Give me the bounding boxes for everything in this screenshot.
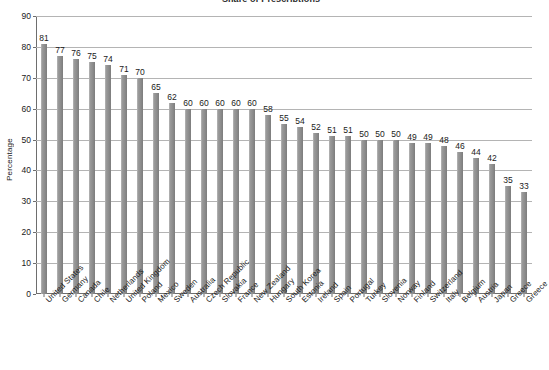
bar-group[interactable]: 60 [201,16,208,294]
bar-value-label: 77 [55,45,64,55]
bar-group[interactable]: 60 [233,16,240,294]
bar-value-label: 33 [519,181,528,191]
y-tick-label: 50 [22,135,31,145]
bar-group[interactable]: 60 [249,16,256,294]
bar[interactable] [377,140,384,294]
bar-value-label: 74 [103,54,112,64]
bar-value-label: 49 [423,132,432,142]
bar-value-label: 60 [215,98,224,108]
bar-value-label: 46 [455,141,464,151]
bar[interactable] [345,136,352,294]
bar[interactable] [425,143,432,294]
bar-group[interactable]: 55 [281,16,288,294]
bar-group[interactable]: 60 [185,16,192,294]
chart-title: Share of Prescriptions [0,0,542,2]
bar-value-label: 48 [439,135,448,145]
bar[interactable] [361,140,368,294]
bar[interactable] [105,65,112,294]
bar-group[interactable]: 74 [105,16,112,294]
y-tick-mark [33,294,36,295]
y-tick-label: 80 [22,42,31,52]
bars-layer: 8177767574717065626060606060585554525151… [36,16,532,294]
bar-group[interactable]: 46 [457,16,464,294]
bar-group[interactable]: 50 [377,16,384,294]
bar[interactable] [249,109,256,294]
bar-group[interactable]: 35 [505,16,512,294]
bar-value-label: 60 [231,98,240,108]
bar[interactable] [329,136,336,294]
bar[interactable] [409,143,416,294]
y-tick-label: 0 [26,289,31,299]
x-axis-labels: United StatesGermanyCanadaChileNetherlan… [36,296,532,370]
bar-value-label: 50 [391,129,400,139]
bar-value-label: 70 [135,67,144,77]
bar[interactable] [137,78,144,294]
y-tick-label: 60 [22,104,31,114]
bar-group[interactable]: 42 [489,16,496,294]
y-tick-label: 40 [22,165,31,175]
bar-group[interactable]: 54 [297,16,304,294]
bar[interactable] [217,109,224,294]
bar-group[interactable]: 52 [313,16,320,294]
bar-value-label: 60 [183,98,192,108]
bar[interactable] [73,59,80,294]
bar-group[interactable]: 50 [361,16,368,294]
bar-group[interactable]: 71 [121,16,128,294]
bar-value-label: 51 [327,125,336,135]
bar-value-label: 62 [167,92,176,102]
bar-value-label: 35 [503,175,512,185]
bar[interactable] [473,158,480,294]
bar-value-label: 52 [311,122,320,132]
bar[interactable] [441,146,448,294]
bar-value-label: 50 [359,129,368,139]
y-tick-label: 30 [22,196,31,206]
bar[interactable] [185,109,192,294]
bar[interactable] [121,75,128,294]
bar-group[interactable]: 75 [89,16,96,294]
bar-value-label: 75 [87,51,96,61]
bar[interactable] [57,56,64,294]
y-tick-label: 90 [22,11,31,21]
bar-group[interactable]: 48 [441,16,448,294]
bar-group[interactable]: 81 [41,16,48,294]
bar[interactable] [505,186,512,294]
bar[interactable] [89,62,96,294]
bar-group[interactable]: 49 [425,16,432,294]
bar-value-label: 44 [471,147,480,157]
bar-group[interactable]: 51 [345,16,352,294]
y-tick-label: 70 [22,73,31,83]
bar-value-label: 58 [263,104,272,114]
bar-value-label: 81 [39,33,48,43]
bar-group[interactable]: 70 [137,16,144,294]
bar-group[interactable]: 76 [73,16,80,294]
bar-value-label: 65 [151,82,160,92]
bar[interactable] [297,127,304,294]
bar-group[interactable]: 51 [329,16,336,294]
bar-group[interactable]: 60 [217,16,224,294]
bar-value-label: 76 [71,48,80,58]
bar[interactable] [169,103,176,295]
bar-group[interactable]: 58 [265,16,272,294]
bar-value-label: 60 [199,98,208,108]
bar[interactable] [489,164,496,294]
bar-value-label: 71 [119,64,128,74]
y-axis-title: Percentage [2,120,16,200]
bar[interactable] [201,109,208,294]
bar-group[interactable]: 50 [393,16,400,294]
plot-area: 0102030405060708090 81777675747170656260… [36,16,532,294]
bar-value-label: 54 [295,116,304,126]
bar-group[interactable]: 77 [57,16,64,294]
bar-group[interactable]: 62 [169,16,176,294]
bar-value-label: 42 [487,153,496,163]
bar-value-label: 50 [375,129,384,139]
bar[interactable] [393,140,400,294]
bar-value-label: 51 [343,125,352,135]
bar[interactable] [265,115,272,294]
bar-group[interactable]: 49 [409,16,416,294]
bar[interactable] [41,44,48,294]
bar-group[interactable]: 65 [153,16,160,294]
bar-group[interactable]: 44 [473,16,480,294]
y-tick-label: 20 [22,227,31,237]
bar-group[interactable]: 33 [521,16,528,294]
